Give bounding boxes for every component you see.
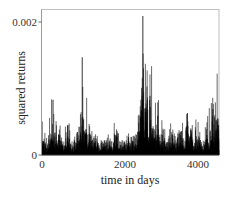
- x-tick-label-2000: 2000: [114, 158, 137, 170]
- chart: 0 0.002 0 2000 4000 time in days squared…: [0, 0, 228, 197]
- y-axis-label: squared returns: [14, 51, 28, 125]
- x-axis-label: time in days: [101, 173, 160, 187]
- x-tick-label-0: 0: [39, 158, 45, 170]
- y-tick-label-0002: 0.002: [12, 16, 37, 28]
- x-tick-label-4000: 4000: [187, 158, 210, 170]
- y-tick-label-0: 0: [32, 149, 38, 161]
